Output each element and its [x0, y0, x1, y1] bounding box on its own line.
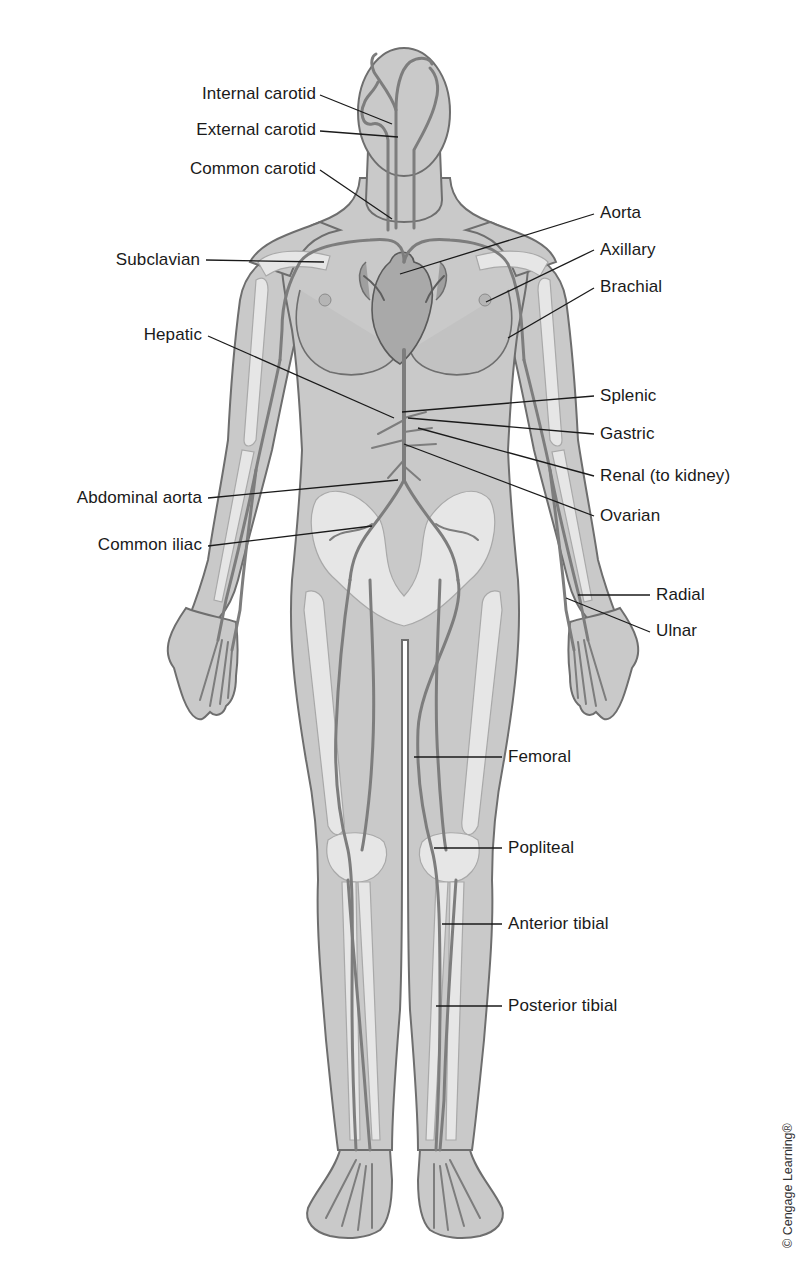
label-femoral: Femoral	[508, 747, 571, 767]
label-brachial: Brachial	[600, 277, 662, 297]
label-subclavian: Subclavian	[116, 250, 200, 270]
label-posterior-tibial: Posterior tibial	[508, 996, 617, 1016]
label-renal: Renal (to kidney)	[600, 466, 730, 486]
label-axillary: Axillary	[600, 240, 656, 260]
label-external-carotid: External carotid	[196, 120, 316, 140]
label-splenic: Splenic	[600, 386, 656, 406]
label-abdominal-aorta: Abdominal aorta	[77, 488, 202, 508]
right-foot-shape	[307, 1150, 392, 1238]
label-anterior-tibial: Anterior tibial	[508, 914, 609, 934]
label-common-iliac: Common iliac	[98, 535, 202, 555]
label-popliteal: Popliteal	[508, 838, 574, 858]
label-gastric: Gastric	[600, 424, 655, 444]
label-radial: Radial	[656, 585, 705, 605]
label-common-carotid: Common carotid	[190, 159, 316, 179]
label-aorta: Aorta	[600, 203, 641, 223]
label-internal-carotid: Internal carotid	[202, 84, 316, 104]
right-hand-shape	[168, 608, 238, 719]
label-hepatic: Hepatic	[144, 325, 202, 345]
nipple-shape	[319, 294, 331, 306]
copyright-credit: © Cengage Learning®	[781, 1123, 795, 1248]
left-hand-shape	[569, 608, 639, 719]
body-illustration	[168, 48, 638, 1238]
label-ulnar: Ulnar	[656, 621, 697, 641]
label-ovarian: Ovarian	[600, 506, 660, 526]
left-foot-shape	[418, 1150, 503, 1238]
